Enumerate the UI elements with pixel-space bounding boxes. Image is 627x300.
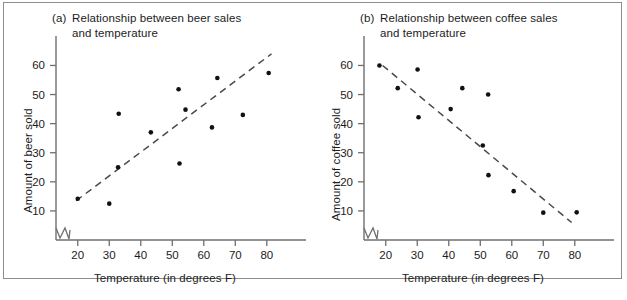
data-point [377, 63, 382, 68]
x-tick-label: 60 [505, 249, 518, 261]
data-point [215, 76, 220, 81]
y-tick-label: 10 [32, 205, 45, 217]
y-tick-label: 60 [32, 59, 45, 71]
data-point [486, 92, 491, 97]
x-tick-label: 50 [474, 249, 487, 261]
data-point [241, 113, 246, 118]
y-tick-label: 20 [32, 176, 45, 188]
chart-panel-beer-sales: (a)Relationship between beer salesand te… [0, 0, 310, 277]
y-tick-label: 50 [32, 89, 45, 101]
data-point [210, 125, 215, 130]
chart-panel-coffee-sales: (b)Relationship between coffee salesand … [308, 0, 618, 277]
trend-line [383, 65, 572, 222]
x-tick-label: 80 [568, 249, 581, 261]
data-point [107, 201, 112, 206]
data-point [149, 130, 154, 135]
y-tick-label: 60 [340, 59, 353, 71]
data-point [541, 210, 546, 215]
data-point [177, 161, 182, 166]
axis-break-icon [56, 228, 70, 239]
data-point [75, 196, 80, 201]
data-point [176, 87, 181, 92]
x-tick-label: 30 [411, 249, 424, 261]
x-tick-label: 70 [229, 249, 242, 261]
data-point [574, 210, 579, 215]
y-tick-label: 20 [340, 176, 353, 188]
y-tick-label: 40 [32, 118, 45, 130]
scatter-plot-a: 20304050607080102030405060 [0, 0, 310, 277]
y-tick-label: 30 [340, 147, 353, 159]
data-point [116, 111, 121, 116]
y-tick-label: 30 [32, 147, 45, 159]
data-point [415, 67, 420, 72]
data-point [116, 165, 121, 170]
data-point [511, 189, 516, 194]
data-point [395, 86, 400, 91]
data-point [416, 115, 421, 120]
x-tick-label: 20 [379, 249, 392, 261]
x-tick-label: 40 [134, 249, 147, 261]
scatter-plot-b: 20304050607080102030405060 [308, 0, 618, 277]
data-point [480, 143, 485, 148]
x-tick-label: 30 [103, 249, 116, 261]
data-point [486, 173, 491, 178]
y-tick-label: 50 [340, 89, 353, 101]
x-tick-label: 40 [442, 249, 455, 261]
x-tick-label: 20 [71, 249, 84, 261]
data-point [448, 107, 453, 112]
x-tick-label: 80 [260, 249, 273, 261]
x-tick-label: 70 [537, 249, 550, 261]
data-point [183, 107, 188, 112]
axis-break-icon [364, 228, 378, 239]
x-tick-label: 60 [197, 249, 210, 261]
data-point [266, 71, 271, 76]
data-point [460, 86, 465, 91]
trend-line [76, 54, 271, 201]
figure-page: (a)Relationship between beer salesand te… [0, 0, 627, 300]
y-tick-label: 40 [340, 118, 353, 130]
x-tick-label: 50 [166, 249, 179, 261]
y-tick-label: 10 [340, 205, 353, 217]
